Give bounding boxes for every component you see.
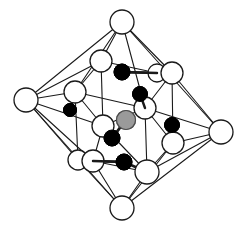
atom-black-center-left-front xyxy=(104,130,120,146)
atom-black-right-front xyxy=(165,118,180,133)
atom-apex-right xyxy=(209,120,233,144)
atom-apex-top xyxy=(110,10,134,34)
atom-black-upper-right-front xyxy=(133,87,148,102)
atom-black-top-front xyxy=(114,64,130,80)
atom-cage-back-top xyxy=(90,50,112,72)
atom-black-left-front xyxy=(64,104,77,117)
atom-cage-right-lower xyxy=(162,132,184,154)
atom-apex-bottom xyxy=(110,196,134,220)
atom-cage-bottom-front xyxy=(135,160,159,184)
atom-cage-right-top-b xyxy=(161,62,183,84)
atom-black-bottom-front xyxy=(116,154,132,170)
crystal-structure-figure xyxy=(0,0,246,229)
structure-svg xyxy=(0,0,246,229)
atom-cage-left-upper xyxy=(64,81,86,103)
atom-gray-center-front xyxy=(117,111,136,130)
atoms-group xyxy=(14,10,233,220)
atom-apex-left xyxy=(14,88,38,112)
